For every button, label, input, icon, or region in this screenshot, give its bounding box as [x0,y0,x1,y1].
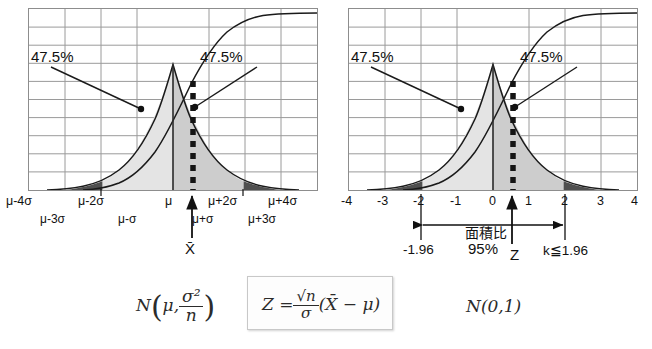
z-denominator: σ [293,306,318,322]
area-ratio-label: 面積比 [465,222,507,242]
formula-mu: μ, [163,295,179,315]
left-pct-label-east: 47.5% [200,48,243,65]
left-axis-label-mu-plus-2sigma: μ+2σ [208,194,237,208]
left-axis-label-mu-plus-sigma: μ+σ [192,212,213,226]
z-formula: Z =√nσ(X̄ − μ) [262,289,380,322]
right-axis-label-4: 4 [631,194,638,208]
left-mean-marker-label: X̄ [185,240,195,257]
left-axis-label-mu-plus-4sigma: μ+4σ [268,194,297,208]
right-axis-label-neg4: -4 [341,194,352,208]
formula-n: n [179,307,203,325]
right-axis-label-1: 1 [525,194,532,208]
z-symbol: Z [262,294,274,314]
right-axis-label-neg2: -2 [413,194,424,208]
right-axis-label-3: 3 [597,194,604,208]
left-distribution-plot [28,8,318,191]
right-distribution-formula: N(0,1) [466,296,521,316]
z-expression: (X̄ − μ) [319,294,380,314]
left-plot-curves [29,9,317,190]
right-lower-bound-label: -1.96 [403,242,434,257]
left-distribution-formula: N(μ,σ²n) [136,288,215,325]
left-axis-label-mu-minus-sigma: μ-σ [118,212,136,226]
formula-N-symbol: N [136,295,151,315]
left-axis-label-mu-plus-3sigma: μ+3σ [248,212,276,226]
right-axis-label-zero: 0 [489,194,496,208]
right-distribution-plot [348,8,638,191]
left-axis-label-mu-minus-2sigma: μ-2σ [78,194,104,208]
right-z-marker-label: Z [510,246,519,263]
right-axis-label-neg3: -3 [377,194,388,208]
right-axis-label-neg1: -1 [450,194,461,208]
right-pct-label-west: 47.5% [351,48,394,65]
left-axis-label-mu: μ [165,194,172,208]
equals-sign: = [279,294,293,314]
left-axis-label-mu-minus-3sigma: μ-3σ [40,212,65,226]
area-ratio-value: 95% [468,240,498,257]
left-axis-label-mu-minus-4sigma: μ-4σ [6,194,32,208]
right-plot-curves [349,9,637,190]
z-formula-box: Z =√nσ(X̄ − μ) [247,276,393,330]
right-pct-label-east: 47.5% [520,48,563,65]
left-pct-label-west: 47.5% [31,48,74,65]
right-upper-bound-label: k≦1.96 [543,242,588,258]
right-axis-label-2: 2 [561,194,568,208]
